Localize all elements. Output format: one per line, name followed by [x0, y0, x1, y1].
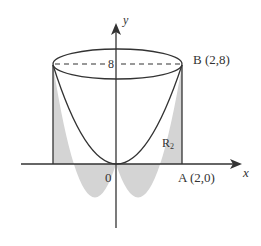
point-b-label: B (2,8)	[193, 53, 230, 66]
region-r2-label: R2	[162, 137, 174, 151]
x-axis-label: x	[243, 166, 249, 179]
solid-of-revolution-diagram: y 8 B (2,8) R2 x 0 A (2,0)	[0, 0, 261, 246]
diagram-canvas	[0, 0, 261, 246]
shaded-region-right	[116, 65, 182, 197]
y-axis-label: y	[123, 14, 128, 26]
region-sub: 2	[170, 142, 174, 151]
point-a-label: A (2,0)	[178, 171, 215, 184]
region-main: R	[162, 136, 170, 150]
top-ellipse	[53, 49, 182, 79]
height-label: 8	[107, 58, 115, 70]
origin-label: 0	[105, 171, 112, 184]
